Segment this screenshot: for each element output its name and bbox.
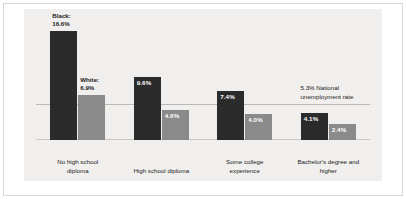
value-label-black-1: 9.6% (137, 80, 152, 86)
bar-group-high-school-diploma: 9.6% 4.6% (134, 77, 189, 140)
category-label-2: Some college experience (203, 158, 287, 175)
bar-white-some-college-experience[interactable]: 4.0% (245, 114, 272, 140)
value-label-black-2: 7.4% (220, 94, 235, 100)
chart-figure: 5.3% National unemployment rate Black: 1… (0, 0, 406, 199)
value-label-white-3: 2.4% (332, 127, 347, 133)
bar-group-bachelors-degree-and-higher: 4.1% 2.4% (301, 113, 356, 140)
bar-black-some-college-experience[interactable]: 7.4% (217, 91, 244, 140)
bar-white-high-school-diploma[interactable]: 4.6% (162, 110, 189, 140)
value-label-white-1: 4.6% (165, 113, 180, 119)
bar-group-some-college-experience: 7.4% 4.0% (217, 91, 272, 140)
bar-white-no-high-school-diploma[interactable] (78, 95, 105, 141)
bar-white-bachelors-degree-and-higher[interactable]: 2.4% (329, 124, 356, 140)
value-label-black-3: 4.1% (304, 116, 319, 122)
series-label-white: White: 6.9% (80, 76, 99, 91)
bar-black-no-high-school-diploma[interactable] (50, 31, 77, 140)
reference-line-annotation: 5.3% National unemployment rate (301, 84, 354, 101)
category-label-3: Bachelor's degree and higher (287, 158, 371, 175)
bar-black-bachelors-degree-and-higher[interactable]: 4.1% (301, 113, 328, 140)
category-label-0: No high school diploma (36, 158, 120, 175)
bar-black-high-school-diploma[interactable]: 9.6% (134, 77, 161, 140)
category-label-1: High school diploma (120, 167, 204, 175)
value-label-white-2: 4.0% (248, 117, 263, 123)
series-label-black: Black: 16.6% (52, 12, 71, 27)
plot-area: 5.3% National unemployment rate Black: 1… (24, 9, 382, 181)
